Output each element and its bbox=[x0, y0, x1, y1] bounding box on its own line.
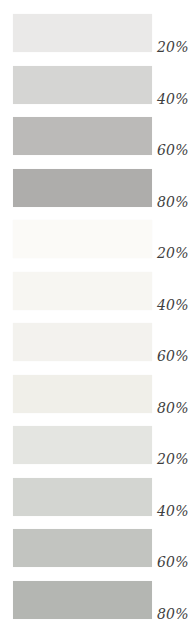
tint-percentage-label: 20% bbox=[157, 40, 189, 54]
tint-row: 20% bbox=[13, 14, 189, 52]
tint-percentage-label: 40% bbox=[157, 504, 189, 518]
tint-percentage-label: 40% bbox=[157, 92, 189, 106]
tint-percentage-label: 80% bbox=[157, 607, 189, 621]
tint-row: 60% bbox=[13, 323, 189, 361]
tint-percentage-label: 20% bbox=[157, 452, 189, 466]
tint-swatch-cream-80 bbox=[13, 375, 152, 413]
tint-percentage-label: 40% bbox=[157, 298, 189, 312]
tint-scale-chart: 20% 40% 60% 80% 20% 40% 60% 80% 20% 40% bbox=[0, 0, 189, 619]
tint-swatch-cream-60 bbox=[13, 323, 152, 361]
tint-swatch-gray-40 bbox=[13, 66, 152, 104]
tint-row: 40% bbox=[13, 272, 189, 310]
tint-row: 20% bbox=[13, 426, 189, 464]
tint-percentage-label: 80% bbox=[157, 195, 189, 209]
tint-percentage-label: 80% bbox=[157, 401, 189, 415]
tint-swatch-gray-80 bbox=[13, 169, 152, 207]
tint-row: 20% bbox=[13, 220, 189, 258]
tint-row: 80% bbox=[13, 169, 189, 207]
tint-row: 40% bbox=[13, 66, 189, 104]
tint-row: 80% bbox=[13, 375, 189, 413]
tint-swatch-coolgray-40 bbox=[13, 478, 152, 516]
tint-swatch-coolgray-20 bbox=[13, 426, 152, 464]
tint-swatch-coolgray-80 bbox=[13, 581, 152, 619]
tint-swatch-gray-60 bbox=[13, 117, 152, 155]
tint-percentage-label: 60% bbox=[157, 143, 189, 157]
tint-percentage-label: 60% bbox=[157, 555, 189, 569]
tint-row: 80% bbox=[13, 581, 189, 619]
tint-swatch-cream-40 bbox=[13, 272, 152, 310]
tint-row: 60% bbox=[13, 117, 189, 155]
tint-swatch-coolgray-60 bbox=[13, 529, 152, 567]
tint-percentage-label: 60% bbox=[157, 349, 189, 363]
tint-row: 60% bbox=[13, 529, 189, 567]
tint-percentage-label: 20% bbox=[157, 246, 189, 260]
tint-swatch-cream-20 bbox=[13, 220, 152, 258]
tint-row: 40% bbox=[13, 478, 189, 516]
tint-swatch-gray-20 bbox=[13, 14, 152, 52]
